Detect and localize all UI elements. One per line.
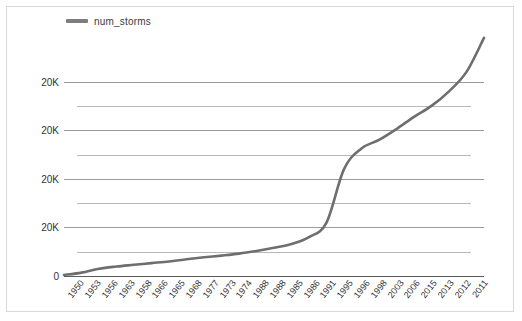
x-axis-labels: 1950195319561963195819661965196819771973… <box>64 278 484 318</box>
x-axis-tick-label: 1986 <box>301 278 321 300</box>
x-axis-tick-label: 1950 <box>66 278 86 300</box>
x-axis-tick-label: 1966 <box>150 278 170 300</box>
y-axis-tick-label: 20K <box>41 125 59 136</box>
legend-swatch-num-storms <box>66 19 88 23</box>
legend-label-num-storms: num_storms <box>94 16 151 27</box>
series-num-storms <box>64 33 484 276</box>
chart-screenshot: num_storms 20K20K20K20K0 195019531956196… <box>0 0 522 321</box>
y-axis-tick-label: 0 <box>53 271 59 282</box>
chart-legend: num_storms <box>66 14 151 28</box>
x-axis-tick-label: 1985 <box>284 278 304 300</box>
y-axis-tick-label: 20K <box>41 173 59 184</box>
gridline-major <box>64 276 484 277</box>
x-axis-tick-label: 1968 <box>184 278 204 300</box>
x-axis-tick-label: 1965 <box>167 278 187 300</box>
x-axis-tick-label: 2013 <box>436 278 456 300</box>
x-axis-tick-label: 1991 <box>318 278 338 300</box>
x-axis-tick-label: 1953 <box>83 278 103 300</box>
x-axis-tick-label: 2003 <box>385 278 405 300</box>
x-axis-tick-label: 1956 <box>100 278 120 300</box>
x-axis-tick-label: 1973 <box>217 278 237 300</box>
x-axis-tick-label: 1996 <box>352 278 372 300</box>
x-axis-tick-label: 1998 <box>368 278 388 300</box>
x-axis-tick-label: 1958 <box>133 278 153 300</box>
plot-area <box>64 33 484 276</box>
x-axis-tick-label: 1974 <box>234 278 254 300</box>
x-axis-tick-label: 2012 <box>452 278 472 300</box>
x-axis-tick-label: 2006 <box>402 278 422 300</box>
x-axis-tick-label: 1963 <box>116 278 136 300</box>
y-axis-tick-label: 20K <box>41 222 59 233</box>
x-axis-tick-label: 1988 <box>251 278 271 300</box>
y-axis-tick-label: 20K <box>41 76 59 87</box>
x-axis-tick-label: 1988 <box>268 278 288 300</box>
y-axis-labels: 20K20K20K20K0 <box>0 33 62 276</box>
x-axis-tick-label: 1977 <box>200 278 220 300</box>
x-axis-tick-label: 2015 <box>419 278 439 300</box>
x-axis-tick-label: 1995 <box>335 278 355 300</box>
